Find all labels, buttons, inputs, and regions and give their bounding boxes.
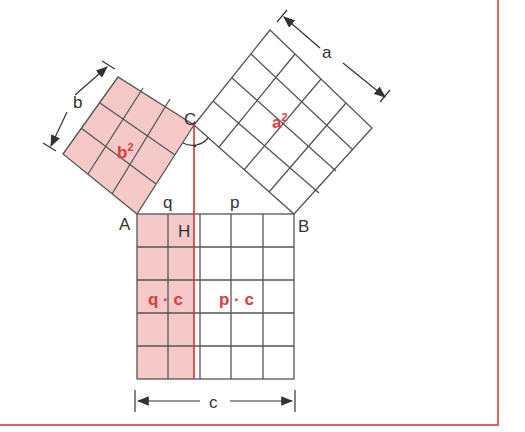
- label-a: a: [322, 43, 332, 62]
- area-q-c: q · c: [148, 290, 183, 309]
- right-angle-arc: [183, 138, 208, 145]
- label-p: p: [230, 193, 239, 212]
- vertex-A: A: [119, 215, 131, 234]
- label-b: b: [73, 93, 82, 112]
- area-p-c: p · c: [219, 290, 254, 309]
- pythagoras-diagram: b a c q p A B C H b2 a2 q · c p · c: [0, 0, 525, 432]
- vertex-C: C: [184, 110, 196, 129]
- label-q: q: [163, 193, 172, 212]
- label-c: c: [209, 393, 218, 412]
- vertex-H: H: [178, 222, 190, 241]
- vertex-B: B: [298, 217, 309, 236]
